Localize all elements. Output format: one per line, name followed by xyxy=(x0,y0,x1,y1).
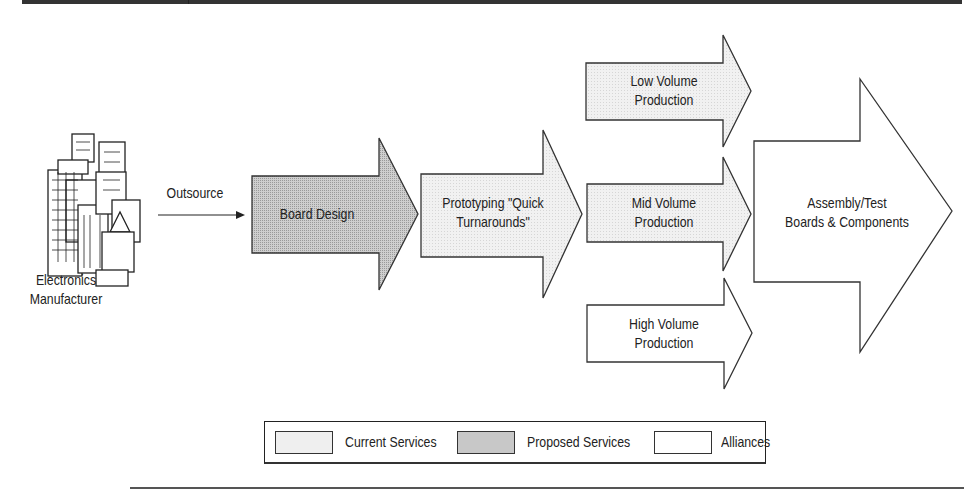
high-volume-line1: High Volume xyxy=(607,314,722,333)
assembly-test-label: Assembly/Test Boards & Components xyxy=(777,193,916,231)
board-design-label: Board Design xyxy=(264,204,371,223)
legend-label-current: Current Services xyxy=(345,432,437,452)
low-volume-line1: Low Volume xyxy=(607,71,722,90)
process-flow-diagram xyxy=(0,0,964,491)
low-volume-line2: Production xyxy=(607,90,722,109)
outsource-connector xyxy=(158,211,245,219)
low-volume-label: Low Volume Production xyxy=(607,71,722,109)
mid-volume-label: Mid Volume Production xyxy=(607,193,722,231)
office-buildings-icon xyxy=(48,134,140,286)
assembly-test-line2: Boards & Components xyxy=(777,212,916,231)
high-volume-label: High Volume Production xyxy=(607,314,722,352)
bottom-rule xyxy=(130,487,964,489)
source-label-line2: Manufacturer xyxy=(25,289,107,308)
assembly-test-line1: Assembly/Test xyxy=(777,193,916,212)
legend: Current Services Proposed Services Allia… xyxy=(264,421,766,464)
high-volume-line2: Production xyxy=(607,333,722,352)
mid-volume-line2: Production xyxy=(607,212,722,231)
legend-swatch-current xyxy=(275,431,333,454)
legend-swatch-proposed xyxy=(457,431,515,454)
outsource-label: Outsource xyxy=(158,183,232,202)
prototyping-label: Prototyping "Quick Turnarounds" xyxy=(432,193,555,231)
mid-volume-line1: Mid Volume xyxy=(607,193,722,212)
source-label-line1: Electronics xyxy=(25,270,107,289)
prototyping-line2: Turnarounds" xyxy=(432,212,555,231)
legend-label-proposed: Proposed Services xyxy=(527,432,630,452)
board-design-line1: Board Design xyxy=(264,204,371,223)
legend-label-alliances: Alliances xyxy=(721,432,770,452)
source-label: Electronics Manufacturer xyxy=(25,270,107,308)
prototyping-line1: Prototyping "Quick xyxy=(432,193,555,212)
legend-swatch-alliances xyxy=(654,431,712,454)
